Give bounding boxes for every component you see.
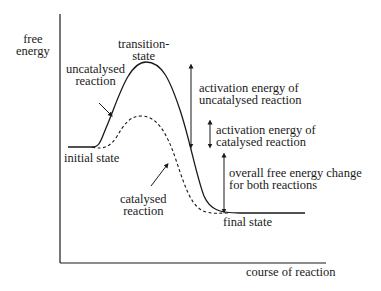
final-state-label: final state <box>223 216 272 228</box>
activation-uncatalysed-label: activation energy of uncatalysed reactio… <box>199 82 301 106</box>
uncatalysed-pointer-arrow <box>99 103 111 115</box>
y-axis-label-line: energy <box>16 45 50 57</box>
x-axis-label: course of reaction <box>246 266 336 278</box>
energy-diagram <box>0 0 381 291</box>
label-line: reaction <box>120 205 167 217</box>
label-line: uncatalysed reaction <box>199 94 301 106</box>
catalysed-pointer-arrow <box>151 165 167 186</box>
initial-state-label: initial state <box>64 152 119 164</box>
overall-change-label: overall free energy change for both reac… <box>229 167 362 191</box>
catalysed-label: catalysed reaction <box>120 193 167 217</box>
activation-catalysed-label: activation energy of catalysed reaction <box>216 124 316 148</box>
label-line: reaction <box>66 75 125 87</box>
label-line: catalysed reaction <box>216 136 316 148</box>
uncatalysed-label: uncatalysed reaction <box>66 63 125 87</box>
label-line: state <box>118 50 169 62</box>
y-axis-label: free energy <box>16 33 50 57</box>
transition-state-label: transition- state <box>118 38 169 62</box>
label-line: for both reactions <box>229 179 362 191</box>
